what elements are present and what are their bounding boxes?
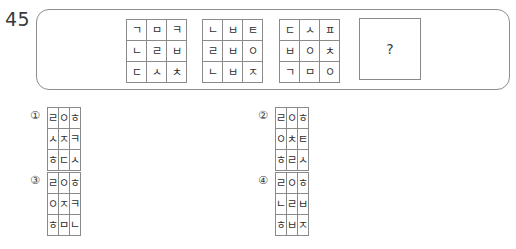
option-4-matrix: ㄹ ㅇ ㅎ ㄴ ㄹ ㅂ ㅎ ㅂ ㅈ (275, 172, 309, 236)
table-row: ㄴ ㅂ ㅌ (203, 20, 263, 41)
matrix-cell: ㄱ (127, 20, 147, 41)
matrix-cell: ㅂ (287, 215, 298, 236)
matrix-cell: ㅇ (276, 129, 287, 150)
matrix-cell: ㅈ (59, 129, 70, 150)
matrix-cell: ㄴ (70, 215, 81, 236)
matrix-cell: ㅍ (320, 20, 340, 41)
stem-matrix-2: ㄴ ㅂ ㅌ ㄹ ㅂ ㅇ ㄴ ㅂ ㅈ (202, 19, 263, 83)
matrix-cell: ㅅ (70, 150, 81, 171)
matrix-cell: ㄹ (287, 150, 298, 171)
option-1-matrix: ㄹ ㅇ ㅎ ㅅ ㅈ ㅋ ㅎ ㄷ ㅅ (47, 107, 81, 171)
matrix-cell: ㄹ (276, 173, 287, 194)
table-row: ㄹ ㅇ ㅎ (276, 173, 309, 194)
matrix-cell: ㄹ (276, 108, 287, 129)
table-row: ㄹ ㅇ ㅎ (48, 108, 81, 129)
matrix-cell: ㄷ (59, 150, 70, 171)
matrix-cell: ㅈ (243, 62, 263, 83)
table-row: ㅅ ㅈ ㅋ (48, 129, 81, 150)
table-row: ㅎ ㅂ ㅈ (276, 215, 309, 236)
matrix-cell: ㄷ (280, 20, 300, 41)
matrix-cell: ㅊ (320, 41, 340, 62)
matrix-cell: ㅎ (276, 150, 287, 171)
matrix-cell: ㄹ (203, 41, 223, 62)
table-row: ㄴ ㅂ ㅈ (203, 62, 263, 83)
matrix-cell: ㅁ (147, 20, 167, 41)
matrix-cell: ㄹ (48, 108, 59, 129)
matrix-cell: ㄹ (287, 194, 298, 215)
unknown-answer-box: ? (359, 18, 421, 80)
table-row: ㄴ ㄹ ㅂ (276, 194, 309, 215)
matrix-cell: ㅎ (70, 173, 81, 194)
matrix-cell: ㅇ (287, 173, 298, 194)
matrix-cell: ㅌ (298, 129, 309, 150)
matrix-cell: ㅋ (70, 194, 81, 215)
matrix-cell: ㅂ (223, 20, 243, 41)
matrix-cell: ㄴ (127, 41, 147, 62)
matrix-cell: ㅅ (48, 129, 59, 150)
matrix-cell: ㅇ (243, 41, 263, 62)
table-row: ㄷ ㅅ ㅊ (127, 62, 187, 83)
matrix-cell: ㅇ (287, 108, 298, 129)
matrix-cell: ㄴ (203, 62, 223, 83)
matrix-cell: ㅊ (167, 62, 187, 83)
matrix-cell: ㅊ (287, 129, 298, 150)
question-number: 45 (5, 8, 30, 30)
option-3-label: ③ (28, 174, 42, 188)
table-row: ㅂ ㅇ ㅊ (280, 41, 340, 62)
matrix-cell: ㄹ (48, 173, 59, 194)
matrix-cell: ㅇ (300, 41, 320, 62)
stem-matrix-3: ㄷ ㅅ ㅍ ㅂ ㅇ ㅊ ㄱ ㅁ ㅇ (279, 19, 340, 83)
table-row: ㄹ ㅇ ㅎ (48, 173, 81, 194)
matrix-cell: ㅎ (276, 215, 287, 236)
matrix-cell: ㅋ (70, 129, 81, 150)
table-row: ㄱ ㅁ ㅇ (280, 62, 340, 83)
matrix-cell: ㅁ (300, 62, 320, 83)
matrix-cell: ㅂ (280, 41, 300, 62)
matrix-cell: ㅅ (298, 150, 309, 171)
matrix-cell: ㅇ (59, 108, 70, 129)
option-1-label: ① (28, 109, 42, 123)
matrix-cell: ㅌ (243, 20, 263, 41)
matrix-cell: ㄱ (280, 62, 300, 83)
table-row: ㄷ ㅅ ㅍ (280, 20, 340, 41)
matrix-cell: ㅋ (167, 20, 187, 41)
option-2-label: ② (256, 109, 270, 123)
table-row: ㅇ ㅊ ㅌ (276, 129, 309, 150)
matrix-cell: ㅇ (59, 173, 70, 194)
matrix-cell: ㅇ (48, 194, 59, 215)
matrix-cell: ㅈ (298, 215, 309, 236)
stem-matrix-1: ㄱ ㅁ ㅋ ㄴ ㄹ ㅂ ㄷ ㅅ ㅊ (126, 19, 187, 83)
option-3-matrix: ㄹ ㅇ ㅎ ㅇ ㅈ ㅋ ㅎ ㅁ ㄴ (47, 172, 81, 236)
matrix-cell: ㅂ (167, 41, 187, 62)
table-row: ㄹ ㅇ ㅎ (276, 108, 309, 129)
matrix-cell: ㄴ (276, 194, 287, 215)
matrix-cell: ㅁ (59, 215, 70, 236)
option-4-label: ④ (256, 174, 270, 188)
matrix-cell: ㅅ (300, 20, 320, 41)
option-2-matrix: ㄹ ㅇ ㅎ ㅇ ㅊ ㅌ ㅎ ㄹ ㅅ (275, 107, 309, 171)
matrix-cell: ㄷ (127, 62, 147, 83)
matrix-cell: ㅅ (147, 62, 167, 83)
matrix-cell: ㅎ (48, 215, 59, 236)
matrix-cell: ㅎ (70, 108, 81, 129)
table-row: ㅎ ㄹ ㅅ (276, 150, 309, 171)
stem-panel (36, 9, 510, 90)
matrix-cell: ㅂ (298, 194, 309, 215)
table-row: ㄹ ㅂ ㅇ (203, 41, 263, 62)
matrix-cell: ㄴ (203, 20, 223, 41)
table-row: ㄴ ㄹ ㅂ (127, 41, 187, 62)
matrix-cell: ㄹ (147, 41, 167, 62)
matrix-cell: ㅇ (320, 62, 340, 83)
matrix-cell: ㅂ (223, 41, 243, 62)
table-row: ㅎ ㅁ ㄴ (48, 215, 81, 236)
matrix-cell: ㅎ (48, 150, 59, 171)
matrix-cell: ㅎ (298, 173, 309, 194)
matrix-cell: ㅂ (223, 62, 243, 83)
matrix-cell: ㅈ (59, 194, 70, 215)
question-mark: ? (386, 41, 393, 57)
matrix-cell: ㅎ (298, 108, 309, 129)
table-row: ㅇ ㅈ ㅋ (48, 194, 81, 215)
table-row: ㅎ ㄷ ㅅ (48, 150, 81, 171)
table-row: ㄱ ㅁ ㅋ (127, 20, 187, 41)
